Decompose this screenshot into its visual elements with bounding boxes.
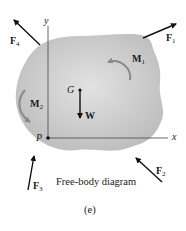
weight-label: W <box>85 111 95 121</box>
moment-m2-label: M2 <box>30 99 43 111</box>
figure-label: (e) <box>84 205 96 216</box>
force-f4-label: F4 <box>10 36 20 48</box>
force-f1-label: F1 <box>166 33 176 45</box>
y-axis-label: y <box>44 16 48 26</box>
diagram-caption: Free-body diagram <box>56 177 136 188</box>
force-f3-label: F3 <box>33 181 43 193</box>
point-p <box>46 136 50 140</box>
point-p-label: P <box>36 133 42 143</box>
point-g-label: G <box>67 85 74 95</box>
moment-m1-label: M1 <box>132 54 145 66</box>
force-f2-label: F2 <box>156 166 166 178</box>
x-axis-label: x <box>172 132 176 142</box>
